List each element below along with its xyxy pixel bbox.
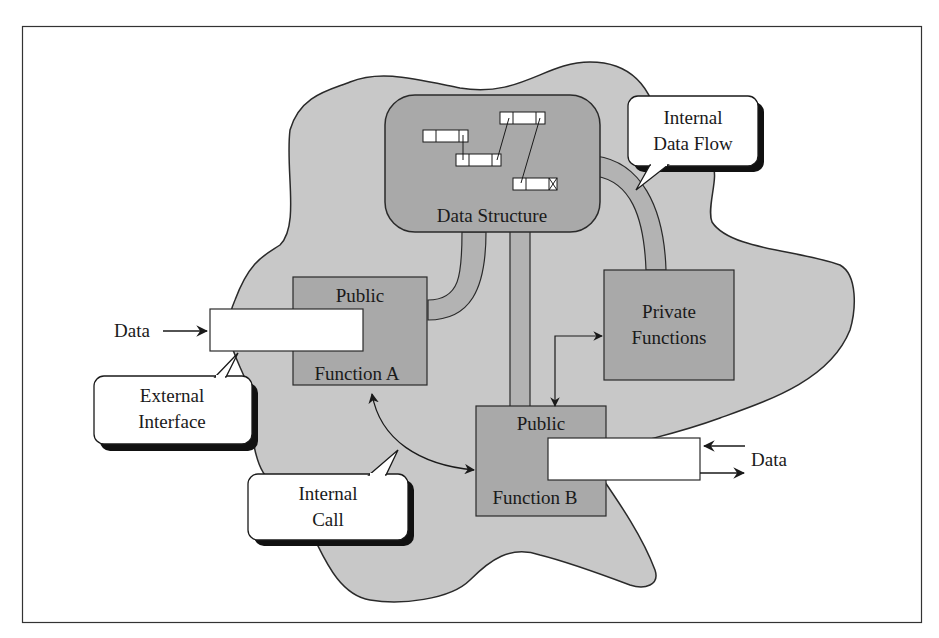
function-b-interface-box[interactable] bbox=[548, 438, 700, 480]
external-data-left-label: Data bbox=[114, 320, 150, 341]
svg-text:Interface: Interface bbox=[138, 411, 206, 432]
svg-text:Internal: Internal bbox=[298, 483, 357, 504]
function-a-interface-box[interactable] bbox=[210, 309, 363, 351]
data-structure-label: Data Structure bbox=[437, 205, 547, 226]
private-functions-box bbox=[604, 270, 734, 380]
svg-text:External: External bbox=[140, 385, 204, 406]
record-r1 bbox=[423, 130, 468, 142]
record-r3 bbox=[500, 112, 545, 124]
function-b-bottom-label: Function B bbox=[493, 487, 578, 508]
function-a-bottom-label: Function A bbox=[315, 363, 400, 384]
svg-text:Data Flow: Data Flow bbox=[653, 133, 733, 154]
svg-text:Call: Call bbox=[312, 509, 344, 530]
svg-text:Internal: Internal bbox=[663, 107, 722, 128]
record-r4 bbox=[513, 178, 557, 190]
data-flow-pipe-function-b bbox=[510, 228, 530, 408]
function-a-top-label: Public bbox=[336, 285, 385, 306]
private-functions-label-line1: Private bbox=[642, 301, 696, 322]
external-data-right-label: Data bbox=[751, 449, 787, 470]
module-diagram: Data Structure Public Function A Private… bbox=[0, 0, 939, 638]
private-functions-label-line2: Functions bbox=[632, 327, 707, 348]
function-b-top-label: Public bbox=[517, 413, 566, 434]
